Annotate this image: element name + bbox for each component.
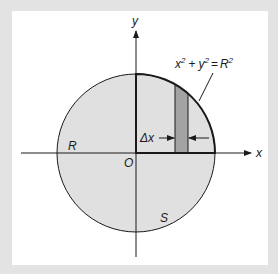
region-s-label: S bbox=[160, 211, 168, 225]
x-axis-label: x bbox=[255, 146, 263, 160]
delta-x-strip bbox=[175, 70, 188, 153]
circle-area-diagram: y x O R S Δx x2+y2=R2 bbox=[0, 0, 278, 274]
circle-equation: x2+y2=R2 bbox=[174, 56, 234, 71]
origin-label: O bbox=[124, 156, 133, 170]
equation-leader-line bbox=[199, 73, 213, 101]
y-axis-label: y bbox=[131, 14, 139, 28]
radius-label: R bbox=[68, 139, 77, 153]
delta-x-label: Δx bbox=[139, 131, 155, 145]
svg-text:x2+y2=R2: x2+y2=R2 bbox=[174, 56, 234, 71]
